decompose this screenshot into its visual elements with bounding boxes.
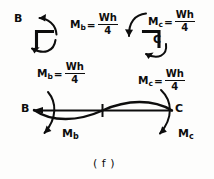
beam-right-moment-label: Mc: [178, 128, 194, 141]
right-joint-equals-sign: =: [164, 16, 173, 28]
left-joint-moment-symbol: Mb: [70, 18, 86, 32]
beam-right-node-label: C: [175, 103, 183, 114]
mid-right-denominator: 4: [170, 81, 179, 92]
beam-left-end-moment-arrow: [44, 92, 54, 134]
right-joint-moment-symbol: Mc: [148, 15, 163, 29]
mid-left-fraction: Wh 4: [65, 62, 85, 85]
left-joint-corner-icon: [37, 32, 53, 47]
left-joint-fraction: Wh 4: [98, 13, 118, 36]
mid-right-equals-sign: =: [154, 75, 163, 87]
mid-left-equation: Mb = Wh 4: [37, 63, 85, 86]
right-joint-equation: Mc = Wh 4: [148, 11, 195, 34]
right-joint-denominator: 4: [180, 22, 189, 33]
left-joint-denominator: 4: [103, 25, 112, 36]
figure-caption: ( f ): [93, 157, 115, 170]
figure-panel: B Mb = Wh 4 C Mc = Wh 4 Mb = Wh 4 Mc =: [0, 0, 214, 179]
left-joint-equals-sign: =: [87, 19, 96, 31]
mid-left-numerator: Wh: [65, 62, 85, 73]
right-joint-moment-arrow-upper: [125, 14, 146, 37]
mid-right-equation: Mc = Wh 4: [138, 70, 185, 93]
right-joint-fraction: Wh 4: [175, 10, 195, 33]
beam-right-end-moment-arrow: [159, 90, 169, 134]
mid-right-fraction: Wh 4: [165, 69, 185, 92]
mid-left-denominator: 4: [70, 74, 79, 85]
left-joint-numerator: Wh: [98, 13, 118, 24]
mid-right-moment-symbol: Mc: [138, 74, 153, 88]
beam-left-node-label: B: [21, 103, 29, 114]
beam-left-moment-label: Mb: [62, 128, 79, 141]
right-joint-numerator: Wh: [175, 10, 195, 21]
right-joint-moment-arrow-lower: [145, 44, 166, 59]
mid-left-moment-symbol: Mb: [37, 67, 53, 81]
left-joint-node-label: B: [14, 13, 22, 24]
left-joint-equation: Mb = Wh 4: [70, 14, 118, 37]
right-joint-node-label: C: [153, 34, 161, 45]
mid-left-equals-sign: =: [54, 68, 63, 80]
mid-right-numerator: Wh: [165, 69, 185, 80]
